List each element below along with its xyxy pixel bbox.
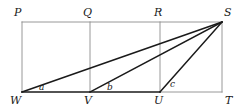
angle-label-c: c bbox=[170, 80, 175, 89]
angle-label-b: b bbox=[107, 83, 113, 92]
vertex-label-v: V bbox=[84, 95, 92, 106]
geometry-figure: PQRSWVUT abc bbox=[0, 0, 250, 111]
vertex-label-u: U bbox=[154, 95, 163, 106]
vertex-label-s: S bbox=[224, 7, 232, 18]
angle-label-a: a bbox=[39, 83, 44, 92]
vertex-label-t: T bbox=[225, 95, 232, 106]
vertex-label-w: W bbox=[10, 95, 21, 106]
vertex-label-q: Q bbox=[83, 7, 92, 18]
thick-segments-group bbox=[22, 22, 222, 92]
vertex-label-r: R bbox=[154, 7, 162, 18]
geometry-canvas bbox=[0, 0, 250, 111]
vertex-label-p: P bbox=[14, 7, 21, 18]
